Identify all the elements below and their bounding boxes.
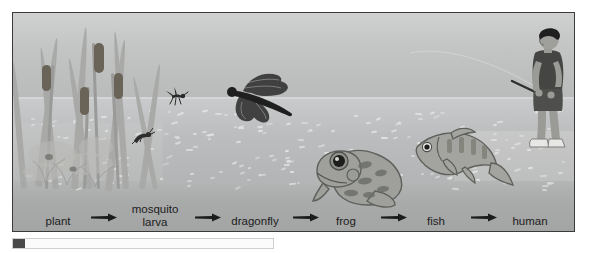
water-speck <box>281 167 286 170</box>
water-speck <box>177 112 184 117</box>
water-speck <box>167 110 171 112</box>
water-speck <box>558 172 564 174</box>
water-speck <box>166 154 173 159</box>
water-speck <box>207 138 211 141</box>
water-speck <box>171 121 178 125</box>
water-speck <box>186 179 191 181</box>
water-speck <box>219 171 223 173</box>
water-speck <box>376 117 382 121</box>
water-speck <box>395 123 402 126</box>
chain-label-fish-text: fish <box>427 215 445 227</box>
chain-label-human: human <box>495 215 565 228</box>
water-speck <box>433 115 440 120</box>
water-speck <box>163 133 168 136</box>
chain-label-human-text: human <box>512 215 547 227</box>
water-speck <box>185 149 192 151</box>
water-speck <box>540 174 547 176</box>
water-speck <box>100 115 106 118</box>
water-speck <box>31 123 35 126</box>
water-speck <box>268 154 273 157</box>
water-speck <box>231 161 236 165</box>
water-speck <box>284 164 290 166</box>
water-speck <box>187 184 191 187</box>
water-speck <box>247 179 251 181</box>
figure-illustration: plant mosquito larva dragonfly frog <box>12 12 575 232</box>
water-speck <box>210 176 215 179</box>
water-speck <box>255 157 260 160</box>
mosquito-icon <box>163 85 189 109</box>
water-speck <box>190 172 194 174</box>
water-speck <box>174 141 181 145</box>
water-speck <box>290 171 294 173</box>
water-speck <box>207 134 213 137</box>
chain-label-plant: plant <box>23 215 93 228</box>
water-speck <box>430 111 435 114</box>
dragonfly-icon <box>213 71 299 127</box>
chain-label-mosquito-larva-line1: mosquito <box>113 203 197 216</box>
chain-label-mosquito-larva-line2: larva <box>113 216 197 229</box>
water-speck <box>248 166 252 169</box>
caption-swatch <box>13 239 25 248</box>
water-speck <box>157 128 162 130</box>
water-speck <box>193 145 198 147</box>
water-speck <box>289 182 296 185</box>
water-speck <box>285 149 289 152</box>
caption-bar <box>12 238 274 249</box>
chain-label-mosquito-larva: mosquito larva <box>113 203 197 228</box>
water-speck <box>418 117 423 119</box>
water-speck <box>296 181 300 184</box>
mosquito-larva-icon <box>130 125 156 147</box>
water-speck <box>105 130 108 132</box>
chain-label-dragonfly-text: dragonfly <box>231 215 278 227</box>
water-speck <box>239 164 244 168</box>
chain-label-plant-text: plant <box>46 215 71 227</box>
water-speck <box>162 162 168 166</box>
water-speck <box>271 158 276 162</box>
water-speck <box>201 130 206 133</box>
chain-label-frog: frog <box>315 215 377 228</box>
chain-label-dragonfly: dragonfly <box>217 215 293 228</box>
chain-label-frog-text: frog <box>336 215 356 227</box>
water-speck <box>440 112 445 114</box>
water-speck <box>561 160 565 163</box>
water-speck <box>240 171 246 174</box>
water-speck <box>316 123 322 126</box>
water-speck <box>542 185 549 188</box>
food-chain-labels: plant mosquito larva dragonfly frog <box>13 189 574 232</box>
water-speck <box>236 141 241 144</box>
fish-icon <box>409 123 517 193</box>
water-speck <box>127 116 132 119</box>
water-speck <box>366 121 371 124</box>
chain-label-fish: fish <box>405 215 467 228</box>
water-speck <box>31 117 35 119</box>
water-speck <box>301 122 308 124</box>
right-arrow-icon <box>471 213 497 222</box>
water-speck <box>354 115 358 117</box>
water-speck <box>238 127 244 129</box>
water-speck <box>160 178 163 180</box>
water-speck <box>415 113 422 115</box>
boy-fishing-icon <box>508 25 575 159</box>
page-root: plant mosquito larva dragonfly frog <box>0 0 589 253</box>
water-speck <box>262 132 267 135</box>
water-speck <box>88 118 93 121</box>
water-speck <box>193 133 197 135</box>
right-arrow-icon <box>381 213 407 222</box>
water-speck <box>201 110 207 113</box>
water-speck <box>528 166 534 169</box>
